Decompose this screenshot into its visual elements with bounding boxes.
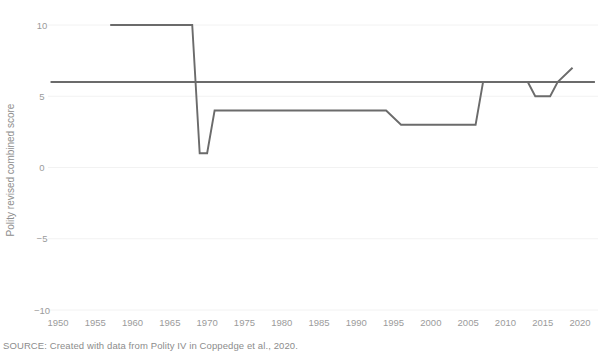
x-axis-tick-label: 1995: [383, 317, 404, 328]
y-axis-tick-label: 5: [39, 91, 44, 102]
x-axis-tick-label: 2000: [420, 317, 441, 328]
y-axis-title: Polity revised combined score: [5, 103, 16, 236]
y-axis-tick-label: −5: [37, 233, 48, 244]
x-axis-tick-label: 2020: [569, 317, 590, 328]
chart-page: 1050−5−10 195019551960196519701975198019…: [0, 0, 603, 362]
source-note: SOURCE: Created with data from Polity IV…: [3, 340, 298, 351]
x-axis-tick-label: 1970: [197, 317, 218, 328]
x-axis-tick-label: 1950: [47, 317, 68, 328]
x-axis-tick-label: 2015: [532, 317, 553, 328]
x-axis-tick-labels: 1950195519601965197019751980198519901995…: [47, 317, 590, 328]
chart-background: [0, 0, 603, 362]
x-axis-tick-label: 1990: [346, 317, 367, 328]
y-axis-tick-label: 0: [39, 162, 44, 173]
y-axis-tick-label: −10: [34, 305, 50, 316]
x-axis-tick-label: 1985: [308, 317, 329, 328]
x-axis-tick-label: 2005: [458, 317, 479, 328]
x-axis-tick-label: 1975: [234, 317, 255, 328]
polity-score-line-chart: 1050−5−10 195019551960196519701975198019…: [0, 0, 603, 362]
x-axis-tick-label: 1955: [85, 317, 106, 328]
x-axis-tick-label: 1965: [159, 317, 180, 328]
x-axis-tick-label: 1980: [271, 317, 292, 328]
y-axis-tick-label: 10: [37, 20, 48, 31]
x-axis-tick-label: 1960: [122, 317, 143, 328]
x-axis-tick-label: 2010: [495, 317, 516, 328]
